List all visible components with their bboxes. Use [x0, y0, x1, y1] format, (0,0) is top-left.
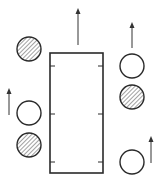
arrow-up-icon [7, 88, 12, 94]
circle-right-bottom-open [120, 150, 144, 174]
diagram-canvas [0, 0, 161, 188]
arrow-up-icon [76, 8, 81, 14]
circle-left-top-hatched [17, 37, 41, 61]
rectangle-outline [50, 53, 103, 173]
circle-right-middle-hatched [120, 85, 144, 109]
arrow-up-icon [149, 136, 154, 142]
circle-left-middle-open [17, 101, 41, 125]
arrow-up-icon [130, 22, 135, 28]
circle-right-top-open [120, 54, 144, 78]
circle-left-bottom-hatched [17, 133, 41, 157]
central-rectangle [50, 53, 103, 173]
circles [17, 37, 144, 174]
